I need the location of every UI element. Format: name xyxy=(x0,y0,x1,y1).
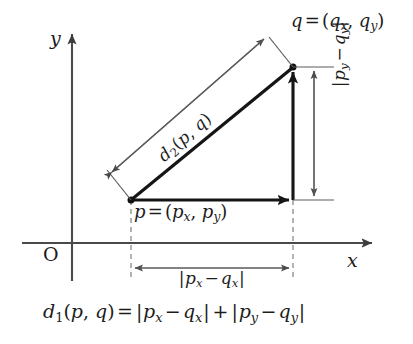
dy-bar-close: | xyxy=(329,21,349,28)
axis-group xyxy=(22,34,372,281)
dx-term2-base: q xyxy=(221,268,232,288)
y-axis-label: y xyxy=(50,29,61,48)
formula-lhs-arg1: p xyxy=(71,300,83,322)
q-equals: = xyxy=(303,10,322,31)
origin-label: O xyxy=(43,245,59,264)
x-axis-label: x xyxy=(347,251,358,270)
dy-term2-sub: y xyxy=(337,28,351,35)
formula-t4-sub: y xyxy=(291,310,298,325)
formula-equals: = xyxy=(115,300,135,322)
formula-lhs-arg2: q xyxy=(95,300,107,322)
diagram-canvas xyxy=(0,0,413,344)
formula-lhs-comma: , xyxy=(83,300,95,322)
manhattan-distance-formula: d1(p, q)=|px−qx|+|py−qy| xyxy=(43,302,306,325)
dy-term2-base: q xyxy=(329,34,349,45)
q-coord-y-base: q xyxy=(359,10,371,31)
vertical-distance-label: |py−qy| xyxy=(331,21,351,88)
dy-operator: − xyxy=(329,45,349,63)
horizontal-distance-label: |px−qx| xyxy=(178,270,245,290)
dx-term1-base: p xyxy=(185,268,196,288)
formula-bar2-close: | xyxy=(298,300,306,322)
diagonal-measure-tick-q xyxy=(269,37,293,67)
vertical-measure-group xyxy=(293,67,334,200)
q-close-paren: ) xyxy=(377,10,384,31)
formula-t2-base: q xyxy=(183,300,195,322)
p-equals: = xyxy=(146,201,165,222)
q-name: q xyxy=(291,10,303,31)
formula-lhs-open: ( xyxy=(63,300,70,322)
p-coord-y-base: p xyxy=(202,201,214,222)
formula-lhs-base: d xyxy=(43,300,55,322)
formula-minus2: − xyxy=(258,300,278,322)
point-p-label: p=(px, py) xyxy=(134,203,227,224)
p-close-paren: ) xyxy=(220,201,227,222)
q-open-paren: ( xyxy=(322,10,329,31)
dy-term1-base: p xyxy=(329,70,349,81)
diagonal-measure-tick-p xyxy=(107,170,131,200)
formula-plus: + xyxy=(210,300,230,322)
dx-operator: − xyxy=(202,268,220,288)
formula-bar1-open: | xyxy=(135,300,143,322)
dx-bar-close: | xyxy=(238,268,245,288)
formula-minus1: − xyxy=(162,300,182,322)
distance-diagram-figure: y x O q=(qx, qy) p=(px, py) |px−qx| |py−… xyxy=(0,0,413,344)
formula-bar2-open: | xyxy=(231,300,239,322)
formula-t4-base: q xyxy=(279,300,291,322)
p-open-paren: ( xyxy=(165,201,172,222)
dy-term1-sub: y xyxy=(337,64,351,71)
formula-lhs-close: ) xyxy=(107,300,114,322)
p-name: p xyxy=(134,201,146,222)
formula-t3-base: p xyxy=(239,300,251,322)
formula-t1-base: p xyxy=(143,300,155,322)
p-coord-x-base: p xyxy=(172,201,184,222)
p-comma: , xyxy=(190,201,201,222)
dy-bar-open: | xyxy=(329,81,349,88)
